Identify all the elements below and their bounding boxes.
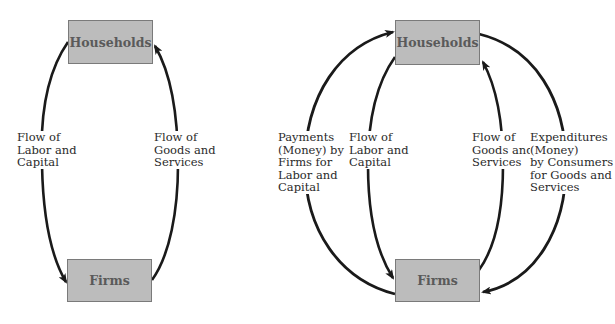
households-label: Households bbox=[396, 35, 478, 50]
households-box-left: Households bbox=[68, 20, 153, 64]
firms-label: Firms bbox=[89, 273, 129, 288]
households-label: Households bbox=[69, 35, 151, 50]
label-flow-labor-capital-left: Flow of Labor and Capital bbox=[17, 131, 77, 169]
households-box-right: Households bbox=[395, 20, 480, 65]
label-flow-goods-services-left: Flow of Goods and Services bbox=[154, 131, 216, 169]
firms-box-right: Firms bbox=[395, 259, 480, 302]
label-expenditures-money: Expenditures (Money) by Consumers for Go… bbox=[530, 131, 613, 194]
firms-label: Firms bbox=[417, 273, 457, 288]
label-flow-goods-services-right: Flow of Goods and Services bbox=[472, 131, 534, 169]
label-flow-labor-capital-right: Flow of Labor and Capital bbox=[349, 131, 409, 169]
label-payments-money: Payments (Money) by Firms for Labor and … bbox=[278, 131, 344, 194]
firms-box-left: Firms bbox=[67, 259, 152, 302]
